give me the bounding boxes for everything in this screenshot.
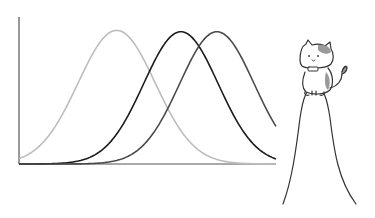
cat-eye-right: [317, 55, 319, 57]
curve-dark-gray: [19, 32, 276, 164]
chart: [0, 0, 375, 218]
cat-on-peak-illustration: [283, 40, 356, 204]
series-layer: [19, 30, 276, 164]
cat-tail-tip: [342, 67, 347, 74]
axes: [19, 17, 276, 164]
cat-eye-left: [308, 55, 310, 57]
cat-bow-tie: [308, 67, 318, 71]
cat-head: [300, 40, 333, 68]
narrow-peak-curve: [283, 88, 356, 204]
